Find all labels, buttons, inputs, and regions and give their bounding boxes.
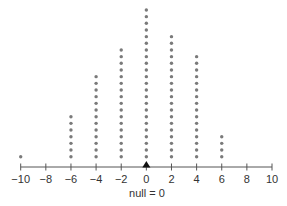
data-dot [195, 142, 198, 145]
data-dot [94, 155, 97, 158]
data-dot [170, 62, 173, 65]
data-dot [195, 88, 198, 91]
data-dot [120, 128, 123, 131]
data-dot [120, 135, 123, 138]
data-dot [170, 155, 173, 158]
data-dot [195, 75, 198, 78]
null-marker-triangle-icon [142, 161, 150, 168]
dot-column [120, 48, 123, 158]
data-dot [69, 142, 72, 145]
data-dot [170, 135, 173, 138]
data-dot [170, 108, 173, 111]
data-dot [145, 95, 148, 98]
x-tick-label: 0 [143, 173, 149, 185]
data-dot [195, 155, 198, 158]
data-dot [145, 48, 148, 51]
data-dot [145, 128, 148, 131]
dot-column [94, 75, 97, 158]
x-axis-label: null = 0 [129, 187, 165, 199]
data-dot [145, 82, 148, 85]
data-dot [120, 82, 123, 85]
dot-column [170, 35, 173, 158]
data-dot [94, 115, 97, 118]
data-dot [220, 135, 223, 138]
x-tick-label: 6 [219, 173, 225, 185]
data-dot [145, 42, 148, 45]
data-dot [145, 122, 148, 125]
data-dot [69, 155, 72, 158]
data-dot [145, 115, 148, 118]
data-dot [170, 102, 173, 105]
dot-plot-chart: −10−8−6−4−20246810 null = 0 [0, 0, 287, 206]
data-dot [120, 115, 123, 118]
data-dot [195, 128, 198, 131]
dot-column [145, 8, 148, 158]
data-dot [145, 88, 148, 91]
data-dot [195, 102, 198, 105]
data-dot [170, 42, 173, 45]
data-dot [170, 82, 173, 85]
data-dot [195, 95, 198, 98]
data-dot [220, 142, 223, 145]
data-dot [69, 128, 72, 131]
data-dot [94, 82, 97, 85]
data-dot [170, 148, 173, 151]
data-dot [170, 142, 173, 145]
data-dot [120, 68, 123, 71]
data-dot [170, 35, 173, 38]
data-dot [195, 55, 198, 58]
data-dot [120, 102, 123, 105]
x-tick-label: −10 [11, 173, 30, 185]
data-dot [94, 102, 97, 105]
data-dot [120, 148, 123, 151]
data-dot [69, 148, 72, 151]
data-dot [145, 15, 148, 18]
data-dot [170, 115, 173, 118]
data-dot [69, 135, 72, 138]
data-dot [195, 115, 198, 118]
data-dot [69, 122, 72, 125]
data-dot [69, 115, 72, 118]
x-tick-label: 2 [168, 173, 174, 185]
data-dot [120, 88, 123, 91]
data-dot [120, 142, 123, 145]
data-dot [170, 122, 173, 125]
data-dot [145, 28, 148, 31]
data-dot [145, 135, 148, 138]
data-dot [195, 68, 198, 71]
data-dot [145, 22, 148, 25]
data-dot [195, 82, 198, 85]
data-dot [145, 142, 148, 145]
data-dot [220, 155, 223, 158]
data-dot [170, 75, 173, 78]
dot-column [220, 135, 223, 158]
x-tick-label: 4 [194, 173, 200, 185]
data-dot [220, 148, 223, 151]
data-dot [145, 108, 148, 111]
data-dot [145, 35, 148, 38]
data-dot [94, 108, 97, 111]
dot-column [19, 155, 22, 158]
data-dot [94, 148, 97, 151]
data-dot [145, 68, 148, 71]
data-dot [170, 68, 173, 71]
data-dot [195, 122, 198, 125]
data-dot [145, 102, 148, 105]
data-dot [195, 148, 198, 151]
data-dot [19, 155, 22, 158]
data-dot [170, 95, 173, 98]
data-dot [145, 75, 148, 78]
dot-columns [19, 8, 223, 158]
x-tick-label: 8 [244, 173, 250, 185]
data-dot [120, 155, 123, 158]
data-dot [120, 122, 123, 125]
data-dot [120, 108, 123, 111]
data-dot [120, 75, 123, 78]
data-dot [120, 95, 123, 98]
data-dot [145, 55, 148, 58]
data-dot [94, 135, 97, 138]
data-dot [94, 128, 97, 131]
data-dot [94, 142, 97, 145]
data-dot [195, 135, 198, 138]
data-dot [170, 55, 173, 58]
